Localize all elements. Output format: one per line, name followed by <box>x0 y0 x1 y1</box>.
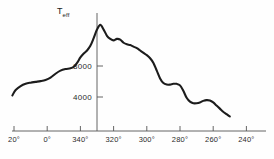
y-tick-label-4000: 4000 <box>73 93 92 102</box>
x-tick-label-260: 260° <box>205 135 221 144</box>
figure-panel: Teff 20°0°340°320°300°280°260°240° 80004… <box>0 0 274 159</box>
x-tick-label-300: 300° <box>139 135 155 144</box>
x-tick-label-340: 340° <box>72 135 88 144</box>
x-axis-ticks <box>14 126 246 131</box>
x-tick-label-20: 20° <box>8 135 20 144</box>
x-tick-label-280: 280° <box>172 135 188 144</box>
x-tick-label-0: 0° <box>43 135 51 144</box>
x-tick-label-320: 320° <box>105 135 121 144</box>
x-tick-label-240: 240° <box>238 135 254 144</box>
data-curve-teff <box>12 25 229 116</box>
x-axis-tick-labels: 20°0°340°320°300°280°260°240° <box>8 135 255 144</box>
y-axis-tick-labels: 80004000 <box>73 62 92 102</box>
axes-group <box>12 13 266 131</box>
y-axis-ticks <box>97 66 103 97</box>
chart-canvas: 20°0°340°320°300°280°260°240° 80004000 <box>0 0 274 159</box>
